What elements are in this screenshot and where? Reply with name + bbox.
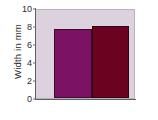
y-tick-label: 4 <box>12 59 32 68</box>
y-axis-tick-labels: 0246810 <box>12 0 32 120</box>
y-tick-label: 8 <box>12 23 32 32</box>
figure-bottom-edge <box>0 103 158 104</box>
bar-chart-figure: Width in mm 0246810 <box>0 0 158 120</box>
bar-0 <box>54 29 92 98</box>
y-tick-mark <box>33 9 36 10</box>
plot-area <box>36 9 135 99</box>
y-tick-label: 6 <box>12 41 32 50</box>
y-tick-mark <box>33 63 36 64</box>
y-tick-mark <box>33 99 36 100</box>
y-tick-mark <box>33 27 36 28</box>
y-tick-label: 10 <box>12 5 32 14</box>
y-tick-label: 2 <box>12 77 32 86</box>
bottom-margin <box>0 103 158 120</box>
x-axis-line <box>35 99 136 100</box>
y-tick-mark <box>33 45 36 46</box>
y-tick-mark <box>33 81 36 82</box>
bar-1 <box>92 26 129 98</box>
